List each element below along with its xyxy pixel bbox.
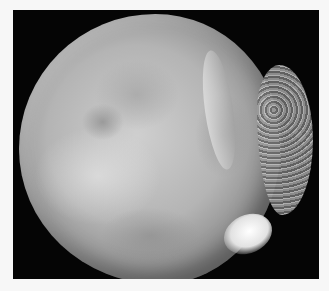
photograph xyxy=(13,10,319,279)
